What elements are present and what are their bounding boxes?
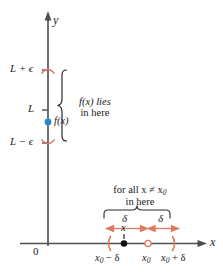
x0-label: x0 <box>142 253 150 265</box>
epsilon-delta-limit-diagram: y x 0 L + ϵ L L − ϵ f(x) f(x) lies in he… <box>0 0 223 275</box>
delta-left-arrowhead-start <box>107 226 114 231</box>
fx-point-label: f(x) <box>54 116 69 127</box>
x-axis-label: x <box>210 236 215 248</box>
x-point-label: x <box>121 223 126 234</box>
range-note: f(x) lies in here <box>79 97 111 118</box>
domain-note-line-1: for all x ≠ x0 <box>113 184 166 195</box>
x0-minus-delta-label: x0 − δ <box>95 253 120 265</box>
origin-label: 0 <box>33 246 39 257</box>
delta-right-label: δ <box>158 213 163 224</box>
y-axis-arrowhead <box>45 11 52 21</box>
diagram-canvas <box>0 0 223 275</box>
domain-note-line-2: in here <box>126 196 155 207</box>
y-tick-marks <box>42 70 48 143</box>
x-axis-arrowhead <box>198 240 208 247</box>
tick-label-l-plus-epsilon: L + ϵ <box>10 63 33 74</box>
x0-plus-delta-label: x0 + δ <box>161 253 186 265</box>
fx-point-marker <box>45 119 52 126</box>
range-brace <box>58 70 67 141</box>
axis-group <box>20 11 207 247</box>
range-note-line-1: f(x) lies <box>79 96 111 107</box>
tick-label-l-minus-epsilon: L − ϵ <box>10 136 33 147</box>
y-axis-label: y <box>53 14 58 26</box>
range-note-line-2: in here <box>80 107 109 118</box>
delta-right-arrowhead-start <box>148 226 155 231</box>
domain-note: for all x ≠ x0 in here <box>105 185 175 207</box>
delta-arrow-group <box>107 226 179 231</box>
x-point-marker <box>121 240 128 247</box>
x-axis-points <box>121 234 151 247</box>
delta-right-arrowhead-end <box>172 226 179 231</box>
tick-label-l: L <box>28 103 34 114</box>
x0-open-circle-marker <box>145 240 151 246</box>
